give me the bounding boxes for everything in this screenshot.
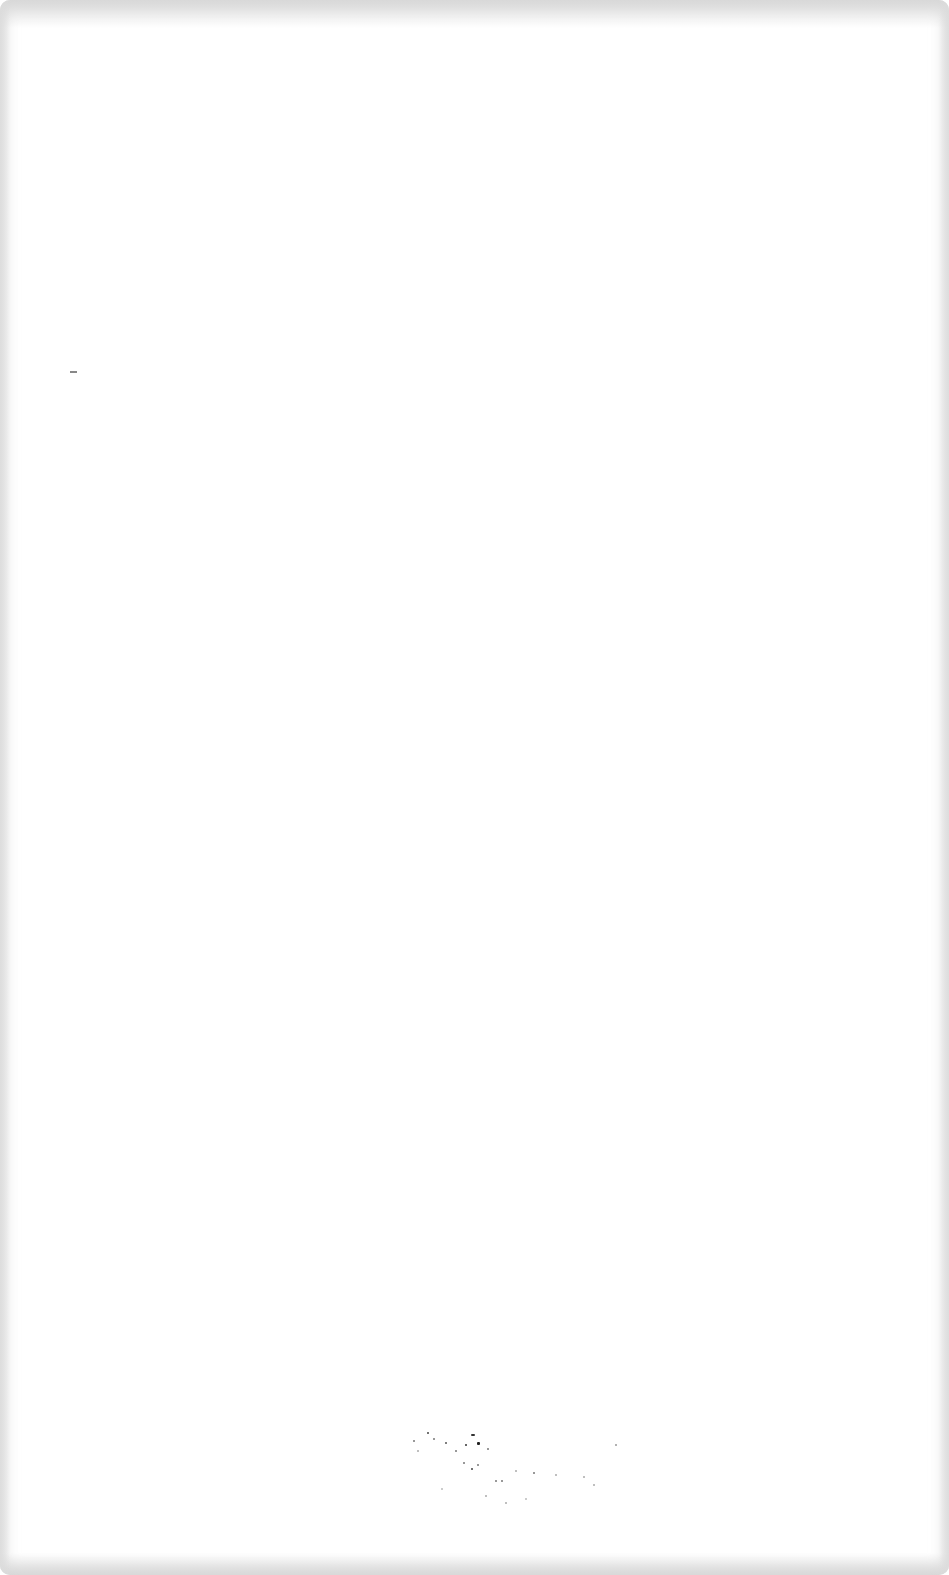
stray-mark	[70, 371, 77, 373]
scan-shadow-top	[0, 0, 949, 28]
scan-shadow-right	[939, 0, 949, 1575]
scan-shadow-left	[0, 0, 10, 1575]
scan-shadow-bottom	[0, 1553, 949, 1575]
blank-page	[0, 0, 949, 1575]
noise-speckles	[405, 1420, 625, 1515]
